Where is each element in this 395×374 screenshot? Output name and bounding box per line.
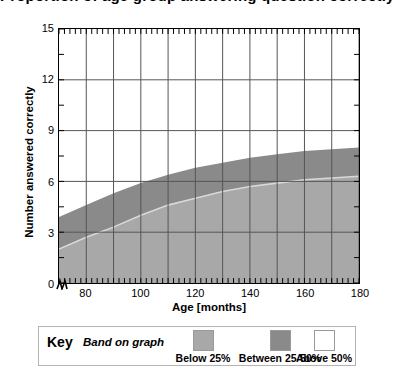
legend-label-below-25: Below 25% <box>171 353 235 364</box>
x-axis-tick-label: 160 <box>285 288 325 299</box>
chart-svg <box>59 29 359 283</box>
x-axis-title: Age [months] <box>58 301 360 313</box>
axis-break-icon <box>56 278 72 290</box>
y-axis-tick-label: 15 <box>32 23 54 34</box>
x-axis-tick-label: 100 <box>120 288 160 299</box>
x-axis-tick-labels: 80100120140160180 <box>58 288 360 302</box>
y-axis-tick-label: 0 <box>32 279 54 290</box>
x-axis-tick-label: 140 <box>230 288 270 299</box>
chart-band-group <box>59 148 359 283</box>
legend: Key Band on graph Below 25% Between 25-5… <box>38 326 356 366</box>
x-axis-tick-label: 120 <box>175 288 215 299</box>
y-axis-tick-label: 12 <box>32 74 54 85</box>
x-axis-tick-label: 180 <box>340 288 380 299</box>
legend-swatch-between-25-50 <box>270 330 291 351</box>
legend-swatch-below-25 <box>193 330 214 351</box>
legend-key-label: Key <box>47 334 73 350</box>
y-axis-title: Number answered correctly <box>23 47 35 277</box>
legend-label-above-50: Above 50% <box>293 353 355 364</box>
y-axis-tick-label: 9 <box>32 125 54 136</box>
page-title: Proportion of age group answering questi… <box>0 0 378 4</box>
legend-item-above-50: Above 50% <box>293 330 355 364</box>
legend-caption: Band on graph <box>83 336 164 348</box>
y-axis-tick-label: 3 <box>32 228 54 239</box>
y-axis-tick-label: 6 <box>32 177 54 188</box>
legend-item-below-25: Below 25% <box>171 330 235 364</box>
legend-swatch-above-50 <box>314 330 335 351</box>
chart-plot-area <box>58 28 360 284</box>
